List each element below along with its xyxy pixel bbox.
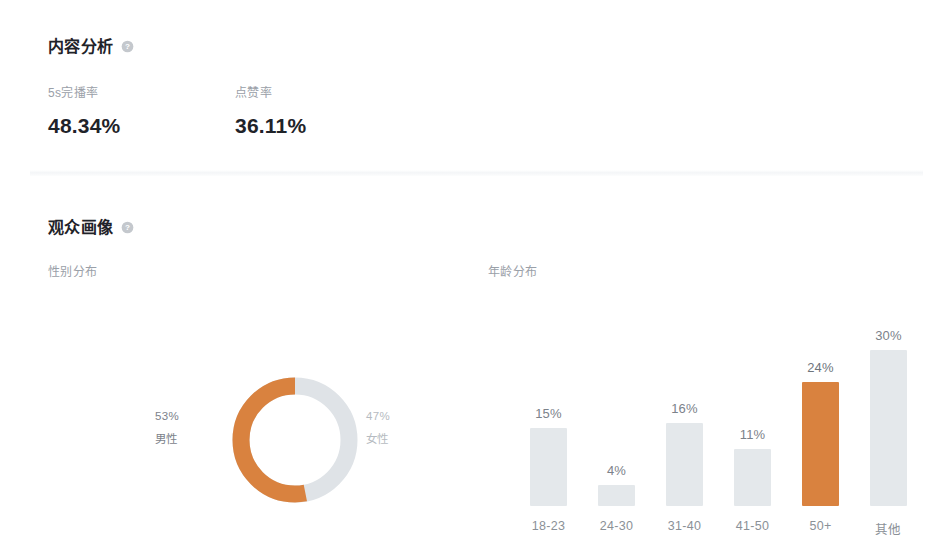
bar-rect[interactable] (598, 485, 635, 506)
age-distribution-caption: 年龄分布 (488, 262, 537, 279)
bar-rect[interactable] (666, 423, 703, 506)
donut-legend-female: 47% 女性 (366, 405, 390, 451)
bar-rect[interactable] (870, 350, 907, 506)
audience-profile-title: 观众画像 (48, 214, 114, 238)
help-circle-icon[interactable]: ? (121, 221, 134, 234)
metric-label: 点赞率 (235, 85, 306, 102)
help-circle-icon[interactable]: ? (121, 40, 134, 53)
section-divider (30, 170, 923, 176)
donut-legend-female-label: 女性 (366, 428, 390, 451)
bar-category-label: 31-40 (668, 519, 701, 533)
bar-column-50-plus[interactable]: 24% 50+ (802, 382, 839, 506)
svg-text:?: ? (125, 42, 130, 51)
bar-value-label: 30% (875, 328, 902, 343)
bar-rect[interactable] (802, 382, 839, 506)
bar-rect[interactable] (734, 449, 771, 506)
donut-legend-male: 53% 男性 (155, 405, 179, 451)
bar-value-label: 15% (535, 406, 562, 421)
bar-value-label: 16% (671, 401, 698, 416)
bar-column-other[interactable]: 30% 其他 (870, 350, 907, 506)
gender-donut-chart: 53% 男性 47% 女性 (150, 300, 440, 530)
bar-category-label: 41-50 (736, 519, 769, 533)
bar-category-label: 18-23 (532, 519, 565, 533)
content-analysis-header: 内容分析 ? (48, 33, 134, 57)
metric-5s-completion-rate: 5s完播率 48.34% (48, 85, 120, 141)
bar-value-label: 24% (807, 360, 834, 375)
analytics-panel: 内容分析 ? 5s完播率 48.34% 点赞率 36.11% 观众画像 ? 性别… (0, 0, 947, 554)
donut-legend-female-value: 47% (366, 405, 390, 428)
donut-legend-male-value: 53% (155, 405, 179, 428)
donut-legend-male-label: 男性 (155, 428, 179, 451)
svg-text:?: ? (125, 223, 130, 232)
bar-rect[interactable] (530, 428, 567, 506)
metric-label: 5s完播率 (48, 85, 120, 102)
audience-profile-header: 观众画像 ? (48, 214, 134, 238)
bar-category-label: 其他 (875, 519, 902, 538)
bar-column-41-50[interactable]: 11% 41-50 (734, 449, 771, 506)
metric-value: 36.11% (235, 111, 306, 141)
bar-column-31-40[interactable]: 16% 31-40 (666, 423, 703, 506)
bar-column-24-30[interactable]: 4% 24-30 (598, 485, 635, 506)
content-analysis-title: 内容分析 (48, 33, 114, 57)
bar-column-18-23[interactable]: 15% 18-23 (530, 428, 567, 506)
metric-value: 48.34% (48, 111, 120, 141)
gender-distribution-caption: 性别分布 (48, 262, 97, 279)
bar-value-label: 11% (740, 427, 766, 442)
bar-category-label: 24-30 (600, 519, 633, 533)
donut-svg (217, 362, 373, 518)
metric-like-rate: 点赞率 36.11% (235, 85, 306, 141)
age-bar-chart: 15% 18-23 4% 24-30 16% 31-40 11% 41-50 2… (500, 300, 940, 540)
bar-value-label: 4% (607, 463, 626, 478)
bar-category-label: 50+ (809, 519, 831, 533)
